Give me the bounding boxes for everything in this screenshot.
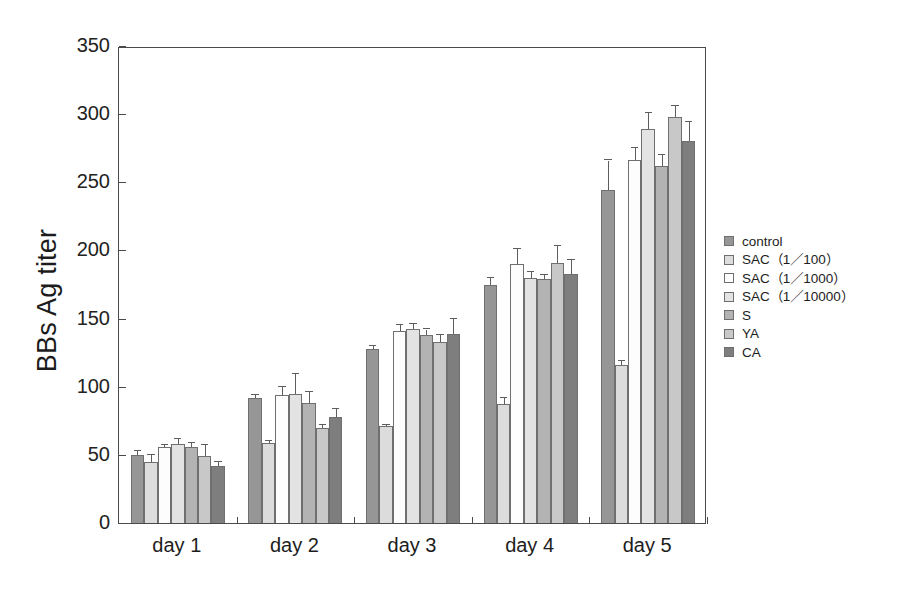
error-bar-cap — [278, 386, 285, 387]
y-axis-tick-mark — [119, 250, 126, 251]
bar-day-3-series-2 — [379, 426, 392, 523]
error-bar-line — [255, 395, 256, 398]
bar-day-1-series-7 — [211, 466, 224, 523]
error-bar-line — [309, 392, 310, 403]
bar-day-3-series-1 — [366, 349, 379, 523]
error-bar-line — [205, 445, 206, 456]
x-axis-tick-mark — [472, 517, 473, 524]
x-axis-group-label-day-5: day 5 — [623, 534, 672, 557]
error-bar-line — [621, 361, 622, 365]
y-axis-tick-label: 100 — [77, 376, 119, 396]
error-bar-line — [635, 148, 636, 160]
error-bar-cap — [265, 440, 272, 441]
y-axis-tick-label: 200 — [77, 239, 119, 259]
x-axis-group-label-day-1: day 1 — [152, 534, 201, 557]
y-axis-tick-label: 250 — [77, 171, 119, 191]
bar-day-1-series-4 — [171, 444, 184, 523]
error-bar-cap — [487, 277, 494, 278]
y-axis-title: BBs Ag titer — [18, 0, 78, 601]
x-axis-tick-mark — [589, 517, 590, 524]
bar-day-3-series-3 — [393, 331, 406, 523]
error-bar-line — [400, 325, 401, 330]
error-bar-line — [544, 275, 545, 279]
error-bar-cap — [409, 323, 416, 324]
bar-day-5-series-6 — [668, 117, 681, 523]
bar-day-4-series-3 — [510, 264, 523, 523]
error-bar-cap — [567, 259, 574, 260]
error-bar-cap — [305, 391, 312, 392]
bar-chart-figure: BBs Ag titer 050100150200250300350 day 1… — [0, 0, 898, 601]
plot-area: 050100150200250300350 — [118, 47, 706, 524]
error-bar-cap — [450, 318, 457, 319]
error-bar-line — [322, 425, 323, 428]
bar-day-5-series-4 — [641, 129, 654, 523]
error-bar-line — [648, 113, 649, 129]
legend-item-2: SAC（1／100） — [724, 251, 894, 270]
error-bar-cap — [134, 450, 141, 451]
error-bar-line — [386, 425, 387, 426]
legend-item-4: SAC（1／10000） — [724, 288, 894, 307]
y-axis-title-label: BBs Ag titer — [33, 229, 64, 372]
legend-swatch-icon — [724, 310, 734, 320]
error-bar-cap — [319, 424, 326, 425]
error-bar-cap — [658, 154, 665, 155]
error-bar-cap — [618, 360, 625, 361]
x-axis-group-label-day-2: day 2 — [270, 534, 319, 557]
error-bar-cap — [174, 438, 181, 439]
legend-swatch-icon — [724, 329, 734, 339]
error-bar-cap — [540, 274, 547, 275]
y-axis-tick-label: 50 — [88, 444, 119, 464]
x-axis-tick-mark — [354, 517, 355, 524]
error-bar-cap — [645, 112, 652, 113]
error-bar-cap — [369, 345, 376, 346]
x-axis-group-label-day-3: day 3 — [388, 534, 437, 557]
error-bar-line — [373, 346, 374, 349]
x-axis-tick-mark — [237, 517, 238, 524]
y-axis-tick-mark — [119, 319, 126, 320]
bar-day-4-series-7 — [564, 274, 577, 523]
legend-item-label: YA — [742, 327, 759, 341]
error-bar-line — [426, 330, 427, 335]
bar-day-5-series-5 — [655, 166, 668, 523]
error-bar-line — [490, 278, 491, 285]
legend: controlSAC（1／100）SAC（1／1000）SAC（1／10000）… — [724, 232, 894, 362]
x-axis-group-label-day-4: day 4 — [505, 534, 554, 557]
error-bar-cap — [423, 328, 430, 329]
legend-swatch-icon — [724, 273, 734, 283]
y-axis-tick-mark — [119, 114, 126, 115]
bar-day-4-series-4 — [524, 278, 537, 523]
error-bar-cap — [604, 159, 611, 160]
error-bar-cap — [214, 461, 221, 462]
legend-item-label: control — [742, 235, 783, 249]
bar-day-2-series-3 — [275, 395, 288, 523]
bar-day-1-series-3 — [158, 447, 171, 523]
bar-day-2-series-2 — [262, 443, 275, 523]
bar-day-5-series-1 — [601, 190, 614, 523]
plot-inner: 050100150200250300350 — [119, 48, 705, 523]
bar-day-5-series-7 — [682, 141, 695, 523]
error-bar-line — [453, 319, 454, 334]
y-axis-tick-mark — [119, 182, 126, 183]
error-bar-cap — [382, 424, 389, 425]
bar-day-1-series-2 — [144, 462, 157, 523]
error-bar-cap — [396, 324, 403, 325]
error-bar-cap — [292, 373, 299, 374]
bar-day-2-series-5 — [302, 403, 315, 523]
legend-item-label: CA — [742, 346, 761, 360]
error-bar-cap — [685, 121, 692, 122]
error-bar-cap — [436, 334, 443, 335]
legend-item-label: SAC（1／1000） — [742, 272, 846, 286]
bar-day-3-series-5 — [420, 335, 433, 523]
error-bar-line — [178, 439, 179, 444]
error-bar-line — [662, 155, 663, 166]
legend-item-label: S — [742, 309, 751, 323]
bar-day-2-series-7 — [329, 417, 342, 523]
bar-day-4-series-2 — [497, 404, 510, 523]
error-bar-line — [282, 387, 283, 395]
legend-item-label: SAC（1／10000） — [742, 290, 854, 304]
legend-swatch-icon — [724, 347, 734, 357]
bar-day-1-series-1 — [131, 455, 144, 523]
error-bar-line — [191, 443, 192, 447]
error-bar-cap — [631, 147, 638, 148]
y-axis-tick-mark — [119, 455, 126, 456]
